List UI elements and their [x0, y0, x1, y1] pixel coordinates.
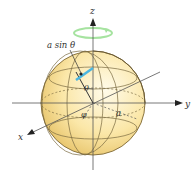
phi-label: φ: [81, 110, 87, 119]
z-axis-label: z: [89, 6, 95, 16]
sphere-diagram: z y x a sin θ θ φ a: [0, 0, 192, 181]
y-axis-label: y: [184, 99, 191, 109]
a-sin-theta-label: a sin θ: [47, 40, 75, 50]
radius-label: a: [116, 108, 121, 118]
x-axis-label: x: [18, 132, 23, 142]
theta-label: θ: [84, 84, 89, 93]
